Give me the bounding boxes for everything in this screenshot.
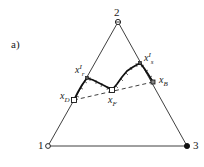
xF-marker <box>110 88 115 93</box>
xB-label: xB <box>159 75 168 88</box>
xr-marker <box>86 77 89 80</box>
ternary-plot <box>0 0 204 167</box>
ternary-diagram: a) 2 1 3 xD xF xB xIr xIs <box>0 0 204 167</box>
xD-label: xD <box>60 91 70 104</box>
xD-marker <box>72 98 77 103</box>
panel-label: a) <box>11 39 20 50</box>
xs-marker <box>139 62 142 65</box>
xB-marker <box>151 80 155 84</box>
vertex-2-label: 2 <box>114 7 120 18</box>
vertex-1-label: 1 <box>38 140 44 151</box>
xs-label: xIs <box>144 52 154 66</box>
vertex-3-marker <box>184 143 189 148</box>
vertex-1-marker <box>46 144 51 149</box>
vertex-3-label: 3 <box>193 140 199 151</box>
xF-label: xF <box>108 95 117 108</box>
xr-label: xIr <box>75 64 85 78</box>
